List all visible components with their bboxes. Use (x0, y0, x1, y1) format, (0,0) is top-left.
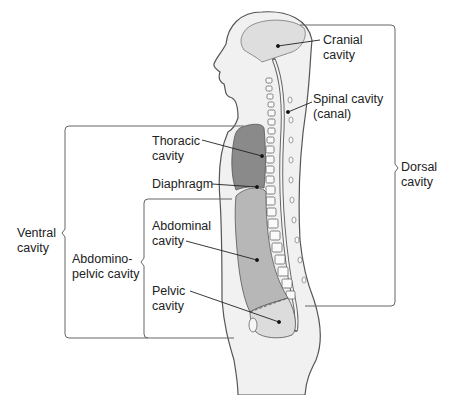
label-spinal-cavity: Spinal cavity (canal) (313, 92, 383, 122)
label-ventral-cavity: Ventral cavity (17, 226, 56, 256)
label-abdominopelvic-cavity: Abdomino- pelvic cavity (72, 252, 139, 282)
dorsal-bracket (300, 25, 398, 306)
label-pelvic-cavity: Pelvic cavity (152, 284, 185, 314)
label-cranial-cavity: Cranial cavity (323, 33, 363, 63)
label-diaphragm: Diaphragm (152, 177, 213, 192)
label-dorsal-cavity: Dorsal cavity (401, 160, 437, 190)
label-abdominal-cavity: Abdominal cavity (152, 219, 211, 249)
label-thoracic-cavity: Thoracic cavity (152, 134, 200, 164)
body-cavities-diagram (0, 0, 451, 395)
